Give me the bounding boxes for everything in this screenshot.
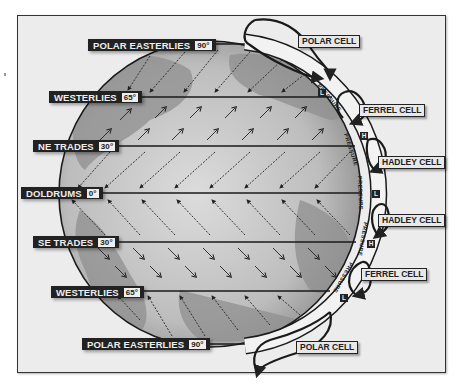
label-westerlies-north: WESTERLIES 65° (49, 91, 142, 103)
globe (59, 41, 361, 347)
label-hadley-cell-north: HADLEY CELL (378, 156, 445, 169)
belt-name: DOLDRUMS (26, 188, 82, 199)
belt-latitude: 90° (188, 339, 206, 350)
belt-latitude: 90° (194, 40, 212, 51)
belt-name: POLAR EASTERLIES (93, 40, 190, 51)
pressure-low-0: L (372, 190, 380, 198)
pressure-low-65n: L (318, 89, 326, 97)
label-polar-cell-south: POLAR CELL (296, 341, 358, 354)
belt-latitude: 65° (121, 92, 139, 103)
label-polar-cell-north: POLAR CELL (298, 35, 360, 48)
label-ne-trades: NE TRADES 30° (33, 140, 119, 152)
belt-name: POLAR EASTERLIES (87, 339, 184, 350)
label-polar-easterlies-north: POLAR EASTERLIES 90° (88, 39, 216, 51)
diagram-stage: PRESSURE PRESSURE PRESSURE PRESSURE PRES… (0, 0, 459, 390)
belt-name: WESTERLIES (54, 92, 117, 103)
belt-latitude: 0° (86, 188, 100, 199)
label-polar-easterlies-south: POLAR EASTERLIES 90° (82, 338, 210, 350)
label-ferrel-cell-south: FERREL CELL (361, 268, 427, 281)
belt-latitude: 30° (98, 141, 116, 152)
label-doldrums: DOLDRUMS 0° (21, 187, 103, 199)
label-ferrel-cell-north: FERREL CELL (359, 104, 425, 117)
label-westerlies-south: WESTERLIES 65° (51, 286, 144, 298)
belt-latitude: 30° (97, 237, 115, 248)
belt-latitude: 65° (123, 287, 141, 298)
label-hadley-cell-south: HADLEY CELL (378, 214, 445, 227)
pressure-low-65s: L (340, 294, 348, 302)
label-se-trades: SE TRADES 30° (33, 236, 119, 248)
belt-name: SE TRADES (38, 237, 93, 248)
belt-name: NE TRADES (38, 141, 94, 152)
pressure-high-30n: H (360, 132, 368, 140)
pressure-high-30s: H (367, 240, 375, 248)
belt-name: WESTERLIES (56, 287, 119, 298)
svg-text:PRESSURE: PRESSURE (357, 176, 364, 210)
